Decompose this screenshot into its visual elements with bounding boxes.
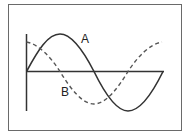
wave-diagram: A B (0, 0, 187, 135)
label-a: A (81, 32, 89, 46)
label-b: B (61, 85, 69, 99)
curve-a (27, 34, 164, 111)
